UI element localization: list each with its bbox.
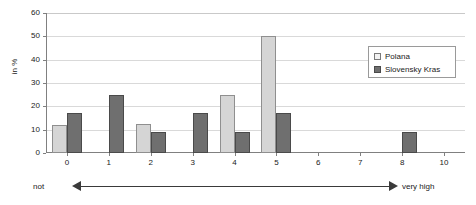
legend-label-slovensky-kras: Slovensky Kras <box>385 65 440 74</box>
x-tick-mark <box>276 153 277 156</box>
y-tick-mark <box>43 153 46 154</box>
bar-slovensky-kras-4 <box>235 132 250 153</box>
x-tick-mark <box>235 153 236 156</box>
x-tick-label: 1 <box>99 158 119 167</box>
legend-swatch-slovensky-kras-icon <box>374 66 381 73</box>
bar-slovensky-kras-3 <box>193 113 208 153</box>
bar-chart: in % 0102030405060 01234567810 not very … <box>0 0 476 205</box>
bar-slovensky-kras-0 <box>67 113 82 153</box>
y-tick-label: 0 <box>18 149 40 157</box>
x-tick-label: 3 <box>183 158 203 167</box>
y-tick-label: 20 <box>18 102 40 110</box>
legend-label-polana: Polana <box>385 52 410 61</box>
x-tick-label: 5 <box>266 158 286 167</box>
y-tick-label: 50 <box>18 32 40 40</box>
y-tick-label: 40 <box>18 56 40 64</box>
bar-slovensky-kras-8 <box>402 132 417 153</box>
x-tick-mark <box>402 153 403 156</box>
legend: Polana Slovensky Kras <box>368 46 456 78</box>
x-tick-mark <box>109 153 110 156</box>
bar-slovensky-kras-5 <box>276 113 291 153</box>
x-tick-mark <box>360 153 361 156</box>
scale-arrow-line <box>80 186 390 187</box>
legend-item-polana: Polana <box>374 50 455 63</box>
x-tick-label: 6 <box>308 158 328 167</box>
bar-slovensky-kras-2 <box>151 132 166 153</box>
y-tick-label: 10 <box>18 126 40 134</box>
bar-polana-4 <box>220 95 235 153</box>
x-tick-label: 7 <box>350 158 370 167</box>
x-tick-label: 10 <box>434 158 454 167</box>
y-tick-label: 30 <box>18 79 40 87</box>
bar-polana-5 <box>261 36 276 153</box>
x-tick-label: 4 <box>225 158 245 167</box>
bar-polana-0 <box>52 125 67 153</box>
scale-label-very-high: very high <box>402 182 434 191</box>
bar-polana-2 <box>136 124 151 153</box>
legend-item-slovensky-kras: Slovensky Kras <box>374 63 455 76</box>
legend-swatch-polana-icon <box>374 53 381 60</box>
x-tick-label: 8 <box>392 158 412 167</box>
x-tick-label: 2 <box>141 158 161 167</box>
y-tick-label: 60 <box>18 9 40 17</box>
x-tick-mark <box>151 153 152 156</box>
bar-slovensky-kras-1 <box>109 95 124 153</box>
bars-layer <box>46 13 465 153</box>
arrow-head-right-icon <box>389 181 398 191</box>
x-tick-mark <box>444 153 445 156</box>
scale-label-not: not <box>33 182 44 191</box>
x-tick-mark <box>193 153 194 156</box>
x-tick-mark <box>67 153 68 156</box>
arrow-head-left-icon <box>72 181 81 191</box>
x-tick-mark <box>318 153 319 156</box>
x-tick-label: 0 <box>57 158 77 167</box>
